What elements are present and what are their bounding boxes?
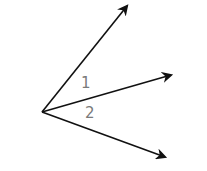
middle-ray <box>42 75 171 112</box>
angle-2-label: 2 <box>85 104 95 122</box>
angle-1-label: 1 <box>81 74 91 92</box>
angle-diagram: 1 2 <box>0 0 207 171</box>
lower-ray <box>42 112 165 157</box>
upper-ray <box>42 6 127 112</box>
